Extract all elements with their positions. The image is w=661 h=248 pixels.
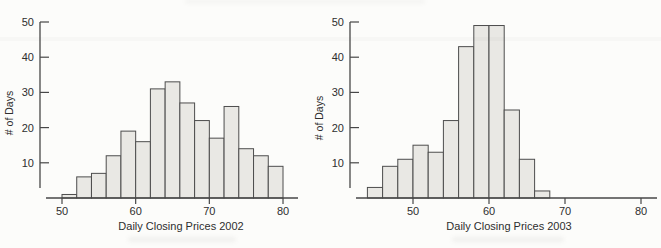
x-tick-label: 80: [635, 205, 647, 217]
charts-canvas: 102030405050607080Daily Closing Prices 2…: [0, 0, 661, 248]
histogram-bar: [428, 152, 443, 198]
y-tick-label: 30: [22, 86, 34, 98]
y-tick-label: 50: [332, 16, 344, 28]
histogram-bar: [209, 138, 224, 198]
y-axis-title: # of Days: [313, 96, 325, 140]
histogram-bar: [121, 131, 136, 198]
x-tick-label: 60: [483, 205, 495, 217]
histogram-bar: [383, 166, 398, 198]
x-tick-label: 50: [407, 205, 419, 217]
y-tick-label: 20: [332, 122, 344, 134]
y-tick-label: 10: [332, 157, 344, 169]
histogram-bar: [504, 110, 519, 198]
histogram-figure: 102030405050607080Daily Closing Prices 2…: [0, 0, 661, 248]
histogram-bar: [239, 149, 254, 198]
histogram-bar: [165, 82, 180, 198]
histogram-bar: [459, 47, 474, 198]
histogram-bar: [398, 159, 413, 198]
histogram-bar: [136, 142, 151, 198]
histogram-bar: [443, 121, 458, 198]
histogram-bar: [489, 26, 504, 198]
x-axis-title: Daily Closing Prices 2002: [118, 220, 243, 232]
histogram-bar: [224, 106, 239, 198]
histogram-bar: [91, 173, 106, 198]
y-tick-label: 30: [332, 86, 344, 98]
y-tick-label: 10: [22, 157, 34, 169]
histogram-bar: [150, 89, 165, 198]
histogram-bar: [367, 187, 382, 198]
y-tick-label: 50: [22, 16, 34, 28]
histogram-bar: [254, 156, 269, 198]
histogram-bar: [268, 166, 283, 198]
x-tick-label: 70: [559, 205, 571, 217]
histogram-bar: [195, 121, 210, 198]
histogram-bar: [535, 191, 550, 198]
y-axis-title: # of Days: [3, 91, 15, 135]
x-tick-label: 70: [203, 205, 215, 217]
x-axis-title: Daily Closing Prices 2003: [446, 220, 571, 232]
y-tick-label: 20: [22, 122, 34, 134]
histogram-bar: [413, 145, 428, 198]
histogram-bar: [106, 156, 121, 198]
y-tick-label: 40: [332, 51, 344, 63]
y-tick-label: 40: [22, 51, 34, 63]
histogram-bar: [77, 177, 92, 198]
x-tick-label: 60: [130, 205, 142, 217]
x-tick-label: 50: [56, 205, 68, 217]
histogram-bar: [180, 103, 195, 198]
x-tick-label: 80: [277, 205, 289, 217]
histogram-bar: [519, 159, 534, 198]
histogram-bar: [474, 26, 489, 198]
